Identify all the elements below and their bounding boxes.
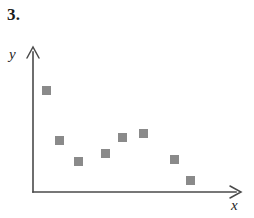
plot-canvas (0, 0, 254, 218)
data-markers-group (42, 86, 195, 185)
data-point-marker (170, 155, 179, 164)
data-point-marker (42, 86, 51, 95)
data-point-marker (139, 129, 148, 138)
data-point-marker (55, 136, 64, 145)
data-point-marker (118, 133, 127, 142)
scatter-plot-figure: 3. y x (0, 0, 254, 218)
data-point-marker (186, 176, 195, 185)
data-point-marker (101, 149, 110, 158)
data-point-marker (74, 157, 83, 166)
axes-group (27, 47, 241, 198)
